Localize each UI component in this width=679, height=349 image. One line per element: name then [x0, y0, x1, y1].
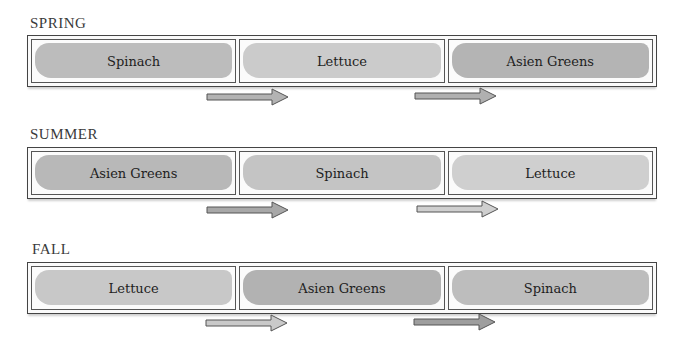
crop-label: Spinach: [240, 166, 443, 181]
crop-cell: Spinach: [448, 266, 653, 310]
crop-cell: Spinach: [31, 39, 236, 83]
bar-cells: Spinach Lettuce Asien Greens: [31, 39, 653, 83]
crop-label: Lettuce: [32, 281, 235, 296]
crop-label: Asien Greens: [32, 166, 235, 181]
arrow-right-icon: [414, 87, 498, 105]
crop-label: Asien Greens: [449, 54, 652, 69]
crop-cell: Spinach: [239, 151, 444, 195]
crop-cell: Lettuce: [31, 266, 236, 310]
crop-cell: Asien Greens: [31, 151, 236, 195]
arrow-right-icon: [413, 313, 497, 331]
crop-label: Lettuce: [240, 54, 443, 69]
arrow-right-icon: [206, 201, 290, 219]
bar-cells: Lettuce Asien Greens Spinach: [31, 266, 653, 310]
rotation-bar-summer: Asien Greens Spinach Lettuce: [27, 147, 657, 199]
season-label-spring: SPRING: [30, 15, 86, 32]
arrow-right-icon: [416, 200, 500, 218]
crop-label: Asien Greens: [240, 281, 443, 296]
crop-cell: Lettuce: [239, 39, 444, 83]
crop-label: Spinach: [449, 281, 652, 296]
crop-label: Spinach: [32, 54, 235, 69]
bar-cells: Asien Greens Spinach Lettuce: [31, 151, 653, 195]
crop-label: Lettuce: [449, 166, 652, 181]
arrow-right-icon: [206, 88, 290, 106]
season-label-fall: FALL: [32, 241, 70, 258]
season-label-summer: SUMMER: [30, 126, 98, 143]
crop-cell: Asien Greens: [239, 266, 444, 310]
arrow-right-icon: [205, 314, 289, 332]
rotation-bar-spring: Spinach Lettuce Asien Greens: [27, 35, 657, 87]
rotation-bar-fall: Lettuce Asien Greens Spinach: [27, 262, 657, 314]
crop-cell: Lettuce: [448, 151, 653, 195]
crop-cell: Asien Greens: [448, 39, 653, 83]
